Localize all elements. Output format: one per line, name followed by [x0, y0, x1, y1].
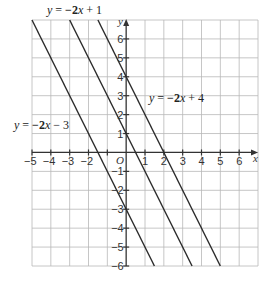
- origin-label: O: [116, 154, 124, 166]
- equation-label-y-eq-neg2x-plus-4: y = −2x + 4: [148, 91, 204, 105]
- y-tick-label: 5: [117, 52, 123, 64]
- equation-label-y-eq-neg2x-plus-1: y = −2x + 1: [46, 3, 102, 17]
- y-tick-label: −4: [111, 222, 124, 234]
- x-axis-label: x: [252, 152, 258, 164]
- y-axis-label: y: [117, 15, 123, 27]
- x-tick-label: −3: [62, 155, 75, 167]
- y-tick-label: −2: [111, 184, 124, 196]
- x-tick-label: 1: [142, 155, 148, 167]
- equation-label-y-eq-neg2x-minus-3: y = −2x − 3: [13, 118, 69, 132]
- y-tick-label: 1: [117, 128, 123, 140]
- x-tick-label: −5: [24, 155, 37, 167]
- x-tick-label: 3: [180, 155, 186, 167]
- coordinate-plane: −5−4−3−2123456654321−1−2−3−4−5−6 x y O y…: [0, 0, 270, 284]
- x-tick-label: 5: [217, 155, 223, 167]
- y-tick-label: −3: [111, 203, 124, 215]
- x-tick-label: 4: [199, 155, 205, 167]
- y-tick-label: −1: [111, 165, 124, 177]
- y-tick-label: 3: [117, 90, 123, 102]
- x-tick-label: −2: [81, 155, 94, 167]
- y-tick-label: −6: [111, 260, 124, 272]
- y-tick-label: −5: [111, 241, 124, 253]
- y-tick-label: 4: [117, 71, 123, 83]
- x-tick-label: −4: [43, 155, 56, 167]
- x-tick-label: 6: [236, 155, 242, 167]
- y-tick-label: 6: [117, 33, 123, 45]
- y-tick-label: 2: [117, 109, 123, 121]
- grid: [32, 20, 258, 266]
- x-tick-label: 2: [161, 155, 167, 167]
- graph-line-y-2x-3: [32, 20, 154, 266]
- graph-line-y-2x-1: [70, 20, 192, 266]
